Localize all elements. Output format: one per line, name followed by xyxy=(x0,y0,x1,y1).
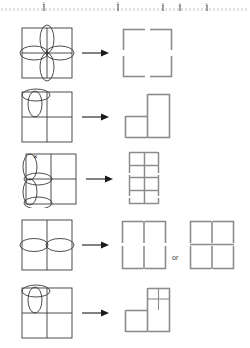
transformation-row-5 xyxy=(0,284,250,344)
figure-page: 1 2 3 4 5 xyxy=(0,0,250,348)
bottom-ellipse xyxy=(24,197,52,208)
ruler-labels: 1 2 3 4 5 xyxy=(43,1,209,7)
transform-arrow xyxy=(82,310,109,317)
input-two-columns-ellipses xyxy=(20,220,74,270)
transformation-row-4: or xyxy=(0,212,250,280)
output-2x4-grid xyxy=(129,152,159,204)
transformation-row-2 xyxy=(0,88,250,144)
measurement-ruler: 1 2 3 4 5 xyxy=(0,0,250,14)
ruler-label-2: 2 xyxy=(117,1,120,6)
ruler-major-ticks xyxy=(44,4,207,11)
ruler-label-1: 1 xyxy=(43,1,46,6)
ruler-label-4: 4 xyxy=(179,2,182,7)
transform-arrow xyxy=(86,176,113,183)
transform-arrow xyxy=(82,50,109,57)
ruler-label-3: 3 xyxy=(162,2,165,7)
output-l-tromino-subdivided xyxy=(126,288,171,332)
transformation-row-3: × xyxy=(0,146,250,208)
output-l-tromino xyxy=(126,94,171,138)
cylinder-side-ellipse xyxy=(28,287,42,313)
cylinder-side-ellipse xyxy=(28,91,42,117)
right-ellipse xyxy=(46,239,74,252)
input-grid-cylinder xyxy=(22,89,72,142)
output-single-square xyxy=(123,29,172,77)
input-grid-cylinder-2 xyxy=(22,285,72,338)
output-2x2-grid xyxy=(190,221,234,269)
ruler-label-5: 5 xyxy=(206,2,209,7)
output-two-tall-cells xyxy=(122,221,166,269)
transformation-row-1 xyxy=(0,22,250,84)
input-grid-stacked-ellipses: × xyxy=(23,152,76,208)
ruler-minor-ticks xyxy=(2,8,246,11)
input-grid-flower xyxy=(20,25,74,81)
transform-arrow xyxy=(82,114,109,121)
x-mark: × xyxy=(33,152,38,161)
transform-arrow xyxy=(82,242,109,249)
left-ellipse xyxy=(20,239,48,252)
or-label: or xyxy=(172,254,179,261)
